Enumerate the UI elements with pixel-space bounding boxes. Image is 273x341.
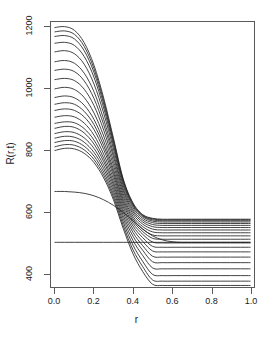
y-tick-mark <box>44 88 50 89</box>
chart-figure: R(r,t) r 400600800100012000.00.20.40.60.… <box>0 0 273 341</box>
curves-group <box>51 22 254 287</box>
y-tick-label: 1200 <box>25 10 34 40</box>
x-tick-mark <box>251 288 252 294</box>
y-tick-label: 400 <box>25 259 34 289</box>
y-tick-mark <box>44 150 50 151</box>
y-tick-mark <box>44 274 50 275</box>
y-tick-label: 1000 <box>25 72 34 102</box>
y-tick-mark <box>44 212 50 213</box>
y-tick-label: 600 <box>25 196 34 226</box>
x-tick-label: 0.2 <box>76 297 110 306</box>
chart-line <box>55 60 250 225</box>
x-tick-label: 1.0 <box>234 297 268 306</box>
y-tick-mark <box>44 26 50 27</box>
x-tick-mark <box>212 288 213 294</box>
chart-line <box>55 31 250 220</box>
plot-area <box>50 21 255 288</box>
x-tick-label: 0.8 <box>195 297 229 306</box>
x-tick-label: 0.4 <box>116 297 150 306</box>
x-tick-mark <box>133 288 134 294</box>
chart-line <box>55 144 250 281</box>
chart-line <box>55 136 250 269</box>
x-tick-mark <box>54 288 55 294</box>
chart-line <box>55 140 250 275</box>
chart-line <box>55 87 250 233</box>
chart-line <box>55 42 250 222</box>
y-tick-label: 800 <box>25 134 34 164</box>
chart-line <box>55 69 250 227</box>
chart-line <box>55 148 250 285</box>
chart-line <box>55 51 250 224</box>
x-tick-label: 0.6 <box>155 297 189 306</box>
x-tick-mark <box>172 288 173 294</box>
chart-line <box>55 78 250 230</box>
x-tick-mark <box>93 288 94 294</box>
x-tick-label: 0.0 <box>37 297 71 306</box>
x-axis-label: r <box>0 314 273 325</box>
y-axis-label: R(r,t) <box>5 129 16 179</box>
